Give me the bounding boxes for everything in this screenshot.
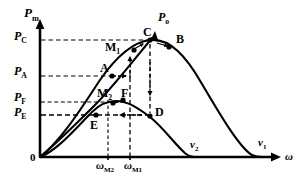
point-label-E: E [90, 119, 98, 131]
x-tick-wm2: ωM2 [96, 160, 114, 174]
curve-label-po: Po [158, 11, 169, 26]
curve-v2 [40, 101, 194, 157]
x-tick-wm1: ωM1 [124, 160, 142, 174]
y-tick-pa: PA [14, 65, 27, 80]
point-label-M2: M2 [97, 87, 112, 102]
marker-E [93, 112, 98, 117]
y-tick-pc: PC [14, 30, 27, 45]
curve-v1 [40, 40, 262, 157]
y-tick-pe: PE [14, 106, 26, 121]
curve-label-v1: v1 [258, 137, 266, 151]
origin-label: 0 [30, 152, 36, 163]
point-label-B: B [176, 33, 184, 45]
marker-B [166, 44, 171, 49]
x-axis-label: ω [285, 151, 293, 162]
curve-label-v2: v2 [190, 139, 198, 153]
marker-A [109, 73, 114, 78]
axis-x [40, 153, 281, 162]
figure-root: Pm PC PA PF PE 0 ωM2 ωM1 ω v1 v2 Po C B … [0, 0, 304, 182]
y-axis-label: Pm [24, 6, 39, 23]
point-label-D: D [155, 106, 164, 118]
marker-D [147, 113, 152, 118]
point-label-M1: M1 [105, 41, 120, 56]
point-label-C: C [143, 26, 152, 38]
marker-M1 [131, 47, 136, 52]
y-tick-pf: PF [14, 91, 26, 106]
point-label-F: F [121, 87, 128, 99]
point-label-A: A [100, 62, 109, 74]
power-speed-plot [0, 0, 304, 182]
